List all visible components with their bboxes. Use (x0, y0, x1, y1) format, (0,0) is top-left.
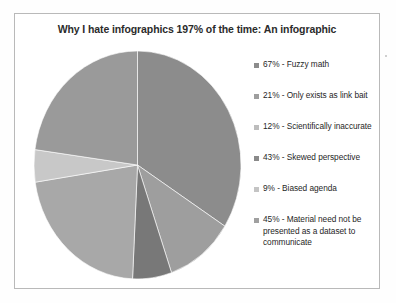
legend-marker-icon (254, 94, 259, 99)
legend-item: 67% - Fuzzy math (254, 59, 382, 81)
page-root: Why I hate infographics 197% of the time… (0, 0, 396, 303)
pie-slice (35, 165, 137, 279)
pie-slice-group (34, 51, 241, 279)
legend-marker-icon (254, 187, 259, 192)
legend-marker-icon (254, 156, 259, 161)
legend-marker-icon (254, 218, 259, 223)
legend-item: 9% - Biased agenda (254, 183, 382, 205)
chart-title: Why I hate infographics 197% of the time… (15, 23, 379, 35)
chart-frame: Why I hate infographics 197% of the time… (14, 13, 380, 289)
legend-item: 21% - Only exists as link bait (254, 90, 382, 112)
legend-item-label: 43% - Skewed perspective (263, 152, 360, 164)
legend-item-label: 67% - Fuzzy math (263, 59, 329, 71)
legend-item-label: 12% - Scientifically inaccurate (263, 121, 372, 133)
legend-item: 45% - Material need not be presented as … (254, 214, 382, 249)
legend-item-label: 9% - Biased agenda (263, 183, 337, 195)
legend-item-label: 21% - Only exists as link bait (263, 90, 368, 102)
legend-marker-icon (254, 125, 259, 130)
legend-marker-icon (254, 63, 259, 68)
legend-item: 12% - Scientifically inaccurate (254, 121, 382, 143)
chart-legend: 67% - Fuzzy math21% - Only exists as lin… (254, 59, 382, 258)
pie-slice (35, 51, 138, 165)
legend-item-label: 45% - Material need not be presented as … (263, 214, 382, 249)
legend-item: 43% - Skewed perspective (254, 152, 382, 174)
scan-edge-mark (385, 55, 387, 57)
pie-chart-svg (34, 51, 241, 279)
pie-chart (34, 51, 241, 279)
